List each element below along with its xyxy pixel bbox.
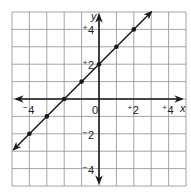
x-tick-label: 4 (168, 104, 174, 116)
x-axis-label: x (179, 102, 186, 114)
data-point (97, 62, 102, 67)
data-point (79, 79, 84, 84)
data-point (132, 27, 137, 32)
tick-sign: − (83, 163, 88, 172)
data-point (27, 132, 32, 137)
data-point (114, 45, 119, 50)
tick-sign: + (83, 23, 88, 32)
y-tick-label: 4 (88, 24, 94, 36)
x-tick-label: 2 (133, 104, 139, 116)
data-point (62, 97, 67, 102)
tick-sign: − (23, 103, 28, 112)
y-tick-label: 4 (88, 164, 94, 176)
y-tick-label: 2 (88, 59, 94, 71)
tick-sign: + (162, 103, 167, 112)
x-tick-label: 4 (28, 104, 34, 116)
tick-sign: + (83, 58, 88, 67)
y-tick-label: 2 (88, 129, 94, 141)
coordinate-plane: −40+2+4+4+2−2−4 x y (0, 0, 191, 192)
x-tick-label: 0 (92, 104, 98, 116)
tick-sign: + (127, 103, 132, 112)
tick-sign: − (83, 128, 88, 137)
data-point (45, 114, 50, 119)
